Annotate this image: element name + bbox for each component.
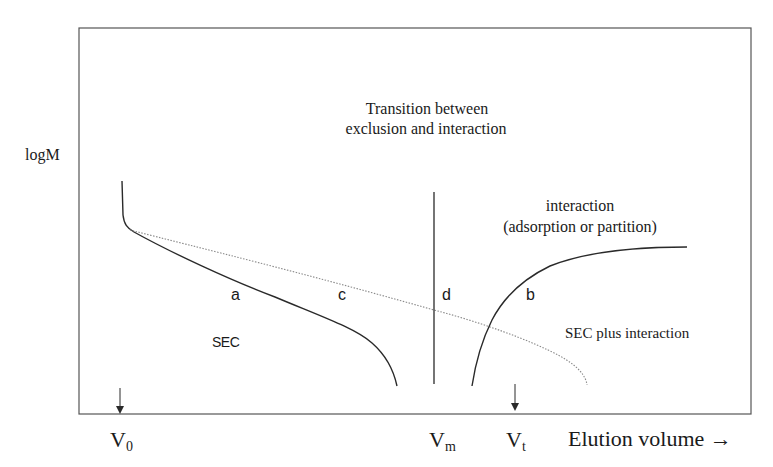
vm-marker: Vm [429,427,456,454]
curve-c [130,230,587,385]
v0-arrow-icon [116,388,124,414]
x-axis-label: Elution volume → [568,426,732,451]
y-axis-label: logM [25,146,60,164]
vt-main: V [506,427,522,452]
curve-label-b: b [526,286,535,303]
v0-sub: 0 [126,439,133,454]
curve-a [122,181,397,386]
interaction-label-line2: (adsorption or partition) [503,218,657,236]
sec-elution-diagram: logM Transition between exclusion and in… [0,0,773,467]
transition-label-line1: Transition between [366,100,489,117]
sec-plus-interaction-label: SEC plus interaction [565,325,690,341]
sec-label: SEC [212,334,240,350]
vm-main: V [429,427,445,452]
v0-main: V [110,427,126,452]
curve-label-d: d [442,286,451,303]
curve-label-c: c [338,286,346,303]
interaction-label-line1: interaction [546,197,614,214]
transition-label-line2: exclusion and interaction [346,120,507,137]
vt-sub: t [522,439,526,454]
vt-arrow-icon [511,384,519,411]
vt-marker: Vt [506,427,526,454]
curve-b [472,247,687,386]
curve-label-a: a [231,286,240,303]
vm-sub: m [445,439,456,454]
v0-marker: V0 [110,427,133,454]
